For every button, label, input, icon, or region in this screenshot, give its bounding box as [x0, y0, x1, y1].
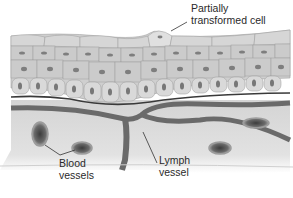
label-line: transformed cell	[191, 14, 266, 26]
label-line: vessel	[159, 166, 190, 178]
label-partially-transformed-cell: Partially transformed cell	[191, 2, 266, 26]
label-line: vessels	[59, 169, 94, 181]
transformed-cell-pointer	[171, 22, 187, 31]
epithelium-diagram: Partially transformed cell Blood vessels…	[0, 0, 293, 198]
label-lymph-vessel: Lymph vessel	[159, 154, 190, 178]
label-line: Partially	[191, 2, 266, 14]
label-blood-vessels: Blood vessels	[59, 157, 94, 181]
label-line: Blood	[59, 157, 94, 169]
label-line: Lymph	[159, 154, 190, 166]
tissue-illustration	[0, 0, 293, 198]
